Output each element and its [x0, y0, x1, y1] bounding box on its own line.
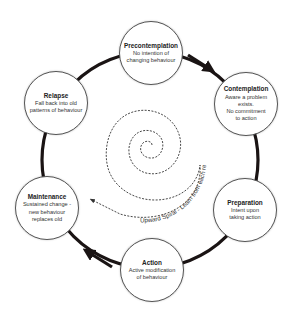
stage-relapse: Relapse Fall back into old patterns of b… — [24, 71, 88, 135]
stage-title: Action — [142, 259, 162, 267]
stage-contemplation: Contemplation Aware a problem exists. No… — [214, 72, 278, 136]
stage-desc-line: taking action — [229, 214, 260, 221]
stage-maintenance: Maintenance Sustained change - new behav… — [15, 176, 79, 240]
stage-desc-line: replaces old — [32, 216, 62, 223]
stage-desc-line: patterns of behaviour — [30, 107, 83, 114]
stage-desc-line: of behaviour — [137, 274, 168, 281]
stage-title: Relapse — [44, 92, 69, 100]
stage-title: Preparation — [227, 199, 263, 207]
stage-title: Contemplation — [224, 85, 269, 93]
stage-action: Action Active modification of behaviour — [120, 238, 184, 302]
stage-precontemplation: Precontemplation No intention of changin… — [119, 21, 183, 85]
stage-desc-line: changing behaviour — [127, 57, 176, 64]
stage-desc-line: to action — [235, 115, 256, 122]
stage-desc-line: exists. — [238, 101, 254, 108]
stage-desc-line: Active modification — [129, 267, 176, 274]
stage-desc-line: Aware a problem — [225, 94, 267, 101]
stage-desc-line: Fall back into old — [35, 100, 77, 107]
stage-desc-line: No commitment — [226, 108, 265, 115]
stage-preparation: Preparation Intent upon taking action — [213, 178, 277, 242]
stage-title: Precontemplation — [124, 42, 178, 50]
arrow-precontemplation-to-contemplation — [188, 55, 210, 69]
stage-title: Maintenance — [28, 193, 67, 201]
stage-desc-line: No intention of — [133, 50, 169, 57]
stage-desc-line: new behaviour — [29, 209, 65, 216]
stage-desc-line: Intent upon — [231, 207, 259, 214]
stage-desc-line: Sustained change - — [23, 201, 71, 208]
